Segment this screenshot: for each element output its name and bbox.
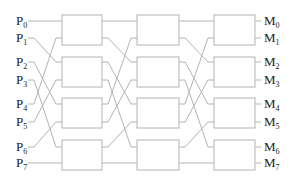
switch-box-s1-3 <box>62 98 102 128</box>
wire-s1-2 <box>102 62 137 104</box>
wire-s2-4 <box>179 38 214 104</box>
wire-in-2 <box>28 62 62 104</box>
output-label-m5: M5 <box>264 114 280 131</box>
input-label-p7: P7 <box>16 155 27 172</box>
input-label-p3: P3 <box>16 72 27 89</box>
wire-s2-5 <box>179 80 214 122</box>
output-label-m0: M0 <box>264 13 280 30</box>
wire-in-4 <box>28 38 62 104</box>
output-label-m6: M6 <box>264 139 280 156</box>
output-label-m3: M3 <box>264 72 280 89</box>
wire-s2-6 <box>179 122 214 147</box>
output-label-m4: M4 <box>264 96 280 113</box>
input-label-p4: P4 <box>16 96 27 113</box>
wire-in-1 <box>28 38 62 62</box>
switch-box-s1-1 <box>62 15 102 45</box>
wire-s2-1 <box>179 38 214 62</box>
switch-box-s3-4 <box>214 140 255 170</box>
switch-box-s1-4 <box>62 140 102 170</box>
input-label-p2: P2 <box>16 54 27 71</box>
switch-boxes <box>62 15 255 170</box>
output-label-m1: M1 <box>264 30 280 47</box>
output-label-m2: M2 <box>264 54 280 71</box>
wire-in-5 <box>28 80 62 122</box>
input-label-p6: P6 <box>16 139 27 156</box>
switch-box-s1-2 <box>62 57 102 87</box>
wire-in-3 <box>28 80 62 147</box>
wire-s2-3 <box>179 80 214 147</box>
switch-box-s2-2 <box>137 57 179 87</box>
switch-box-s3-2 <box>214 57 255 87</box>
switch-box-s2-4 <box>137 140 179 170</box>
wire-in-6 <box>28 122 62 147</box>
wire-s2-2 <box>179 62 214 104</box>
input-label-p0: P0 <box>16 13 27 30</box>
wire-s1-5 <box>102 80 137 122</box>
wire-s1-4 <box>102 38 137 104</box>
input-label-p1: P1 <box>16 30 27 47</box>
switch-box-s2-1 <box>137 15 179 45</box>
switch-box-s2-3 <box>137 98 179 128</box>
wire-s1-3 <box>102 80 137 147</box>
output-label-m7: M7 <box>264 155 280 172</box>
input-label-p5: P5 <box>16 114 27 131</box>
wire-s1-6 <box>102 122 137 147</box>
switch-box-s3-3 <box>214 98 255 128</box>
wire-s1-1 <box>102 38 137 62</box>
switch-box-s3-1 <box>214 15 255 45</box>
omega-network-diagram: P0P1P2P3P4P5P6P7M0M1M2M3M4M5M6M7 <box>0 0 293 180</box>
